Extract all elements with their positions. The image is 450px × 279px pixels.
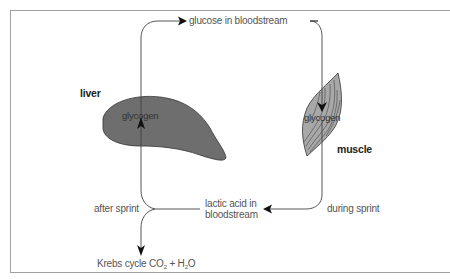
- during-sprint-label: during sprint: [327, 203, 379, 214]
- glucose-label: glucose in bloodstream: [189, 15, 287, 26]
- lactic-acid-line1: lactic acid in: [205, 198, 257, 209]
- krebs-text-end: O: [188, 258, 196, 269]
- liver-glycogen-label: glycogen: [122, 110, 158, 121]
- krebs-text-mid: + H: [167, 258, 185, 269]
- krebs-cycle-label: Krebs cycle CO2 + H2O: [97, 258, 195, 273]
- frame: [10, 10, 450, 273]
- krebs-text: Krebs cycle CO: [97, 258, 164, 269]
- lactic-acid-line2: bloodstream: [205, 209, 258, 220]
- diagram-canvas: glucose in bloodstream liver glycogen gl…: [0, 0, 450, 279]
- liver-shape: [103, 96, 226, 160]
- muscle-glycogen-label: glycogen: [304, 112, 340, 123]
- muscle-label: muscle: [337, 144, 372, 155]
- liver-label: liver: [80, 88, 101, 99]
- diagram-graphics: [0, 0, 450, 279]
- after-sprint-label: after sprint: [94, 203, 139, 214]
